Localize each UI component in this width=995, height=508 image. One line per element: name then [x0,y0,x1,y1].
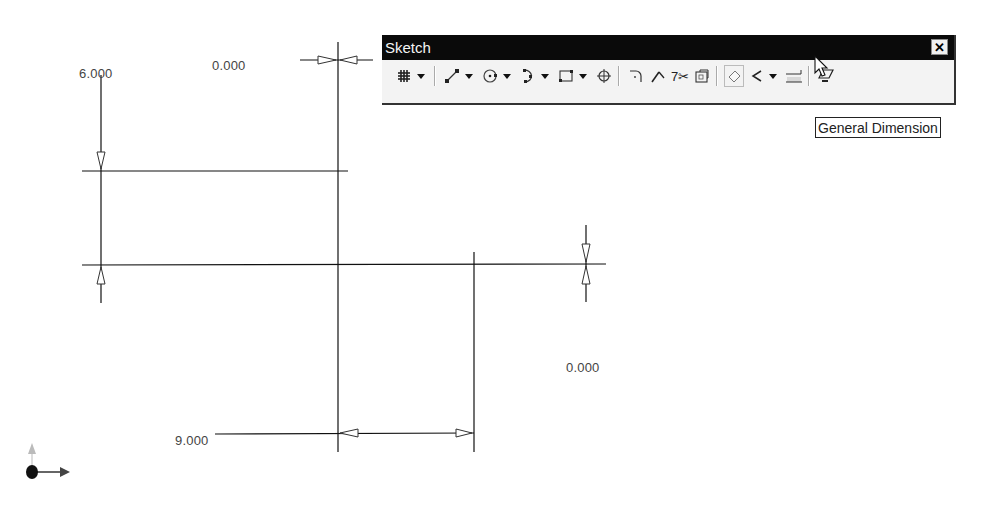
rectangle-dropdown[interactable] [578,65,588,87]
dimension-value-top-0[interactable]: 0.000 [212,58,246,73]
fillet-button[interactable] [626,65,646,87]
offset-icon [694,68,710,84]
toolbar-titlebar[interactable]: Sketch ✕ [382,35,954,60]
trim-button[interactable]: 7✂ [670,65,690,87]
separator [716,66,718,86]
arrow-top0-right [340,56,357,64]
arrow-6-top [97,152,105,169]
offset-button[interactable] [692,65,712,87]
coordinate-triad [22,438,74,488]
extend-button[interactable] [648,65,668,87]
arrow-9-left [340,429,358,437]
rectangle-icon [558,68,574,84]
trim-icon: 7✂ [671,69,689,84]
general-dimension-button[interactable] [724,65,744,87]
dimension-value-9[interactable]: 9.000 [175,433,209,448]
text-icon [785,68,803,84]
point-icon [596,68,612,84]
sketch-line-horizontal[interactable] [82,264,606,265]
rectangle-button[interactable] [556,65,576,87]
arc-dropdown[interactable] [540,65,550,87]
dimension-icon [726,68,742,84]
constraint-button[interactable] [746,65,766,87]
separator [434,66,436,86]
dimension-value-right-0[interactable]: 0.000 [566,360,600,375]
check-icon [748,68,764,84]
toolbar-title: Sketch [385,39,431,56]
arrow-6-bottom [97,267,105,284]
line-icon [444,68,460,84]
arc-button[interactable] [518,65,538,87]
circle-icon [482,68,498,84]
circle-dropdown[interactable] [502,65,512,87]
constraint-dropdown[interactable] [768,65,778,87]
arrow-top0-left [318,56,336,64]
dimension-value-6[interactable]: 6.000 [79,66,113,81]
mouse-cursor [814,55,830,79]
origin-point-icon [26,465,38,479]
toolbar-button-row: 7✂ [382,63,954,89]
extend-icon [650,68,666,84]
separator [618,66,620,86]
close-button[interactable]: ✕ [931,39,948,55]
sketch-toolbar: Sketch ✕ [382,35,956,105]
tooltip: General Dimension [815,117,941,138]
close-icon: ✕ [934,41,945,54]
point-button[interactable] [594,65,614,87]
arrow-right0-bottom [582,266,590,284]
fillet-icon [628,68,644,84]
arrow-9-right [456,429,472,437]
text-button[interactable] [784,65,804,87]
grid-button[interactable] [394,65,414,87]
grid-icon [397,69,411,83]
grid-dropdown[interactable] [416,65,426,87]
separator [808,66,810,86]
circle-button[interactable] [480,65,500,87]
line-button[interactable] [442,65,462,87]
arc-icon [520,68,536,84]
line-dropdown[interactable] [464,65,474,87]
arrow-right0-top [582,244,590,262]
